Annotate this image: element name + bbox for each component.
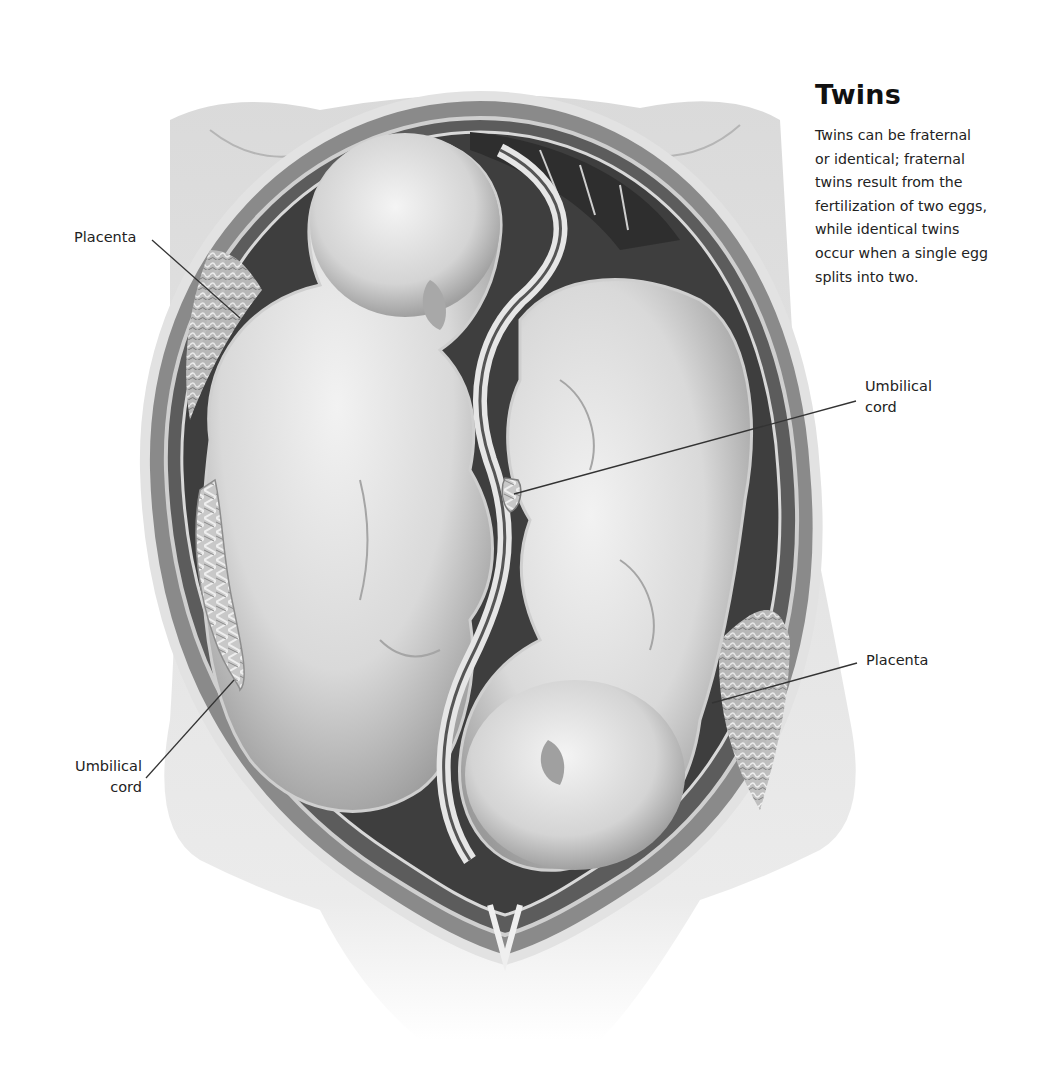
label-placenta-right-text: Placenta <box>866 652 928 668</box>
label-umbilical-left-line2: cord <box>40 777 142 798</box>
label-placenta-right: Placenta <box>866 650 928 671</box>
label-umbilical-left-line1: Umbilical <box>40 756 142 777</box>
caption-line: twins result from the <box>815 174 962 190</box>
label-placenta-left: Placenta <box>74 227 136 248</box>
caption-line: or identical; fraternal <box>815 151 965 167</box>
label-placenta-left-text: Placenta <box>74 229 136 245</box>
caption-line: fertilization of two eggs, <box>815 198 987 214</box>
caption-line: occur when a single egg <box>815 245 988 261</box>
figure-title: Twins <box>815 78 1040 112</box>
label-umbilical-right-line2: cord <box>865 397 932 418</box>
caption-line: while identical twins <box>815 221 959 237</box>
label-umbilical-cord-right: Umbilical cord <box>865 376 932 418</box>
twin-right-head <box>465 680 685 870</box>
twin-left-head <box>310 133 500 317</box>
caption-line: splits into two. <box>815 269 919 285</box>
caption-line: Twins can be fraternal <box>815 127 971 143</box>
figure-caption-panel: Twins Twins can be fraternal or identica… <box>815 78 1040 289</box>
label-umbilical-right-line1: Umbilical <box>865 376 932 397</box>
label-umbilical-cord-left: Umbilical cord <box>40 756 142 798</box>
figure-caption: Twins can be fraternal or identical; fra… <box>815 124 1042 289</box>
